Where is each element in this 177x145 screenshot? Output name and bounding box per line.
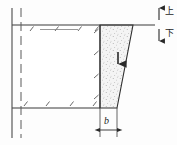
section-break-lines (12, 8, 21, 138)
figure-canvas: b 上 下 (0, 0, 177, 145)
width-dimension-label: b (104, 116, 109, 126)
ground-body (21, 25, 100, 108)
direction-up-label: 上 (165, 7, 174, 16)
direction-down-label: 下 (165, 29, 174, 38)
cross-section-drawing (0, 0, 177, 145)
backfill-wedge (100, 25, 133, 108)
